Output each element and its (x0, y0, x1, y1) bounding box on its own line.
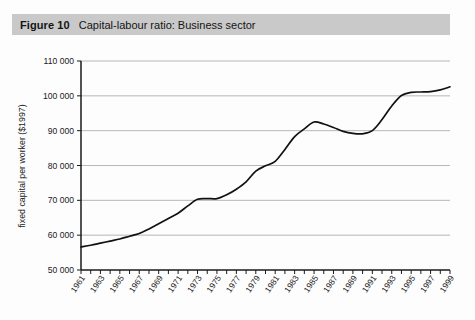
x-tick-label: 1967 (127, 273, 146, 294)
x-tick-label: 1993 (379, 273, 398, 294)
y-tick-label: 80 000 (48, 161, 75, 171)
y-tick-label: 100 000 (43, 91, 74, 101)
y-axis-title: fixed capital per worker ($1997) (17, 104, 27, 227)
figure-title-text: Capital-labour ratio: Business sector (79, 19, 256, 31)
figure-container: Figure 10 Capital-labour ratio: Business… (0, 0, 475, 320)
x-tick-label: 1981 (263, 273, 282, 294)
x-tick-label: 1999 (437, 273, 456, 294)
x-tick-label: 1961 (68, 273, 87, 294)
x-tick-label: 1973 (185, 273, 204, 294)
x-axis-tick-labels: 1961196319651967196919711973197519771979… (68, 273, 456, 294)
x-tick-label: 1963 (88, 273, 107, 294)
y-tick-label: 90 000 (48, 126, 75, 136)
x-tick-label: 1965 (107, 273, 126, 294)
y-tick-label: 110 000 (44, 56, 75, 66)
y-tick-label: 50 000 (48, 265, 75, 275)
x-tick-label: 1989 (340, 273, 359, 294)
x-tick-label: 1997 (418, 273, 437, 294)
y-tick-label: 70 000 (48, 195, 75, 205)
x-tick-label: 1991 (360, 273, 379, 294)
data-line-fixed-capital (81, 87, 450, 247)
x-tick-label: 1985 (301, 273, 320, 294)
line-chart-plot: 110 000100 00090 00080 00070 00060 00050… (0, 40, 475, 320)
x-tick-label: 1971 (165, 273, 184, 294)
x-tick-label: 1977 (224, 273, 243, 294)
x-tick-label: 1969 (146, 273, 165, 294)
x-tick-label: 1983 (282, 273, 301, 294)
figure-title-band: Figure 10 Capital-labour ratio: Business… (12, 14, 450, 35)
y-axis-tick-labels: 110 000100 00090 00080 00070 00060 00050… (43, 56, 74, 275)
x-tick-label: 1995 (399, 273, 418, 294)
figure-number-label: Figure 10 (20, 19, 70, 31)
x-tick-label: 1975 (204, 273, 223, 294)
data-series-group (81, 87, 450, 247)
y-tick-label: 60 000 (48, 230, 75, 240)
gridlines-group (77, 61, 450, 270)
chart-area: 110 000100 00090 00080 00070 00060 00050… (0, 40, 475, 320)
x-tick-label: 1987 (321, 273, 340, 294)
x-tick-label: 1979 (243, 273, 262, 294)
